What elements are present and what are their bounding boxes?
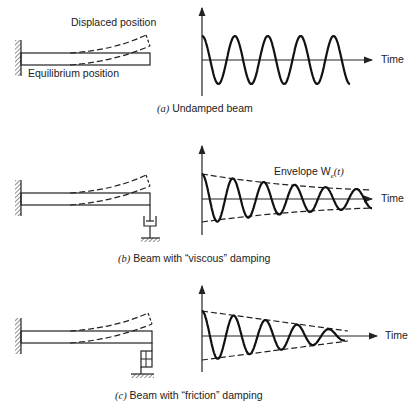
friction-damped-wave — [202, 311, 345, 359]
caption-c: (c) Beam with “friction” damping — [115, 389, 263, 401]
time-label-b: Time — [381, 192, 404, 204]
wall-hatch-icon — [15, 40, 21, 76]
displaced-position-label: Displaced position — [71, 16, 156, 28]
caption-a: (a) Undamped beam — [157, 102, 253, 114]
time-label-c: Time — [385, 329, 408, 341]
equilibrium-position-label: Equilibrium position — [28, 67, 119, 79]
time-label-a: Time — [381, 53, 404, 65]
beam-displaced-bottom — [70, 46, 150, 65]
caption-c-letter: (c) — [115, 390, 127, 401]
caption-a-text: Undamped beam — [172, 102, 253, 114]
panel-c-beam — [15, 313, 154, 378]
panel-a-plot — [202, 8, 372, 96]
wall-hatch-icon — [15, 318, 21, 354]
caption-b-letter: (b) — [118, 253, 130, 264]
friction-block-icon — [131, 343, 154, 378]
wall-hatch-icon — [15, 180, 21, 216]
panel-c-plot — [202, 286, 377, 372]
envelope-arg: (t) — [334, 166, 344, 177]
viscous-damped-wave — [202, 174, 372, 222]
panel-b-beam — [15, 175, 160, 242]
beam-equilibrium — [21, 53, 150, 65]
envelope-upper — [202, 311, 348, 331]
envelope-label-text: Envelope W — [274, 165, 331, 177]
caption-a-letter: (a) — [157, 103, 169, 114]
envelope-lower — [202, 208, 372, 222]
viscous-dashpot-icon — [141, 205, 160, 242]
panel-b-plot — [202, 146, 372, 235]
caption-b-text: Beam with “viscous” damping — [133, 252, 270, 264]
envelope-label: Envelope We(t) — [274, 165, 344, 180]
caption-b: (b) Beam with “viscous” damping — [118, 252, 270, 264]
caption-c-text: Beam with “friction” damping — [130, 389, 263, 401]
figure-canvas — [0, 0, 418, 408]
beam-displaced-top — [70, 35, 146, 53]
